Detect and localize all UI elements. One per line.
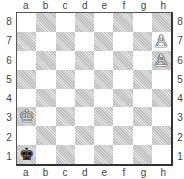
file-label-f-bottom: f — [114, 167, 134, 178]
square-h2[interactable] — [152, 126, 171, 145]
rank-label-1-right: 1 — [174, 147, 184, 166]
square-e1[interactable] — [94, 145, 113, 164]
rank-label-7-left: 7 — [3, 31, 15, 50]
file-label-e-bottom: e — [95, 167, 115, 178]
rank-label-6-right: 6 — [174, 51, 184, 70]
rank-label-2-right: 2 — [174, 128, 184, 147]
chess-board: ♙♙♔♚ — [16, 12, 173, 166]
square-e6[interactable] — [94, 51, 113, 70]
square-b8[interactable] — [36, 13, 55, 32]
square-e4[interactable] — [94, 89, 113, 108]
file-label-h-top: h — [153, 0, 173, 11]
square-c5[interactable] — [56, 70, 75, 89]
square-d8[interactable] — [75, 13, 94, 32]
file-label-g-bottom: g — [134, 167, 154, 178]
rank-label-8-left: 8 — [3, 12, 15, 31]
square-d2[interactable] — [75, 126, 94, 145]
square-h6[interactable]: ♙ — [152, 51, 171, 70]
white-king-icon[interactable]: ♔ — [19, 108, 34, 125]
square-h1[interactable] — [152, 145, 171, 164]
file-label-d-bottom: d — [75, 167, 95, 178]
black-king-icon[interactable]: ♚ — [19, 146, 34, 163]
rank-label-3-left: 3 — [3, 108, 15, 127]
square-c7[interactable] — [56, 32, 75, 51]
square-d7[interactable] — [75, 32, 94, 51]
square-f7[interactable] — [113, 32, 132, 51]
rank-label-5-left: 5 — [3, 70, 15, 89]
file-label-c-bottom: c — [55, 167, 75, 178]
white-pawn-icon[interactable]: ♙ — [154, 52, 169, 69]
square-c8[interactable] — [56, 13, 75, 32]
rank-label-7-right: 7 — [174, 31, 184, 50]
file-label-g-top: g — [134, 0, 154, 11]
square-a5[interactable] — [17, 70, 36, 89]
file-label-b-top: b — [36, 0, 56, 11]
square-h7[interactable]: ♙ — [152, 32, 171, 51]
square-e2[interactable] — [94, 126, 113, 145]
rank-label-5-right: 5 — [174, 70, 184, 89]
file-label-d-top: d — [75, 0, 95, 11]
square-f3[interactable] — [113, 107, 132, 126]
square-g4[interactable] — [133, 89, 152, 108]
square-e5[interactable] — [94, 70, 113, 89]
square-a6[interactable] — [17, 51, 36, 70]
file-label-b-bottom: b — [36, 167, 56, 178]
square-a1[interactable]: ♚ — [17, 145, 36, 164]
square-c1[interactable] — [56, 145, 75, 164]
square-b2[interactable] — [36, 126, 55, 145]
rank-label-3-right: 3 — [174, 108, 184, 127]
square-c2[interactable] — [56, 126, 75, 145]
square-d3[interactable] — [75, 107, 94, 126]
square-h3[interactable] — [152, 107, 171, 126]
square-d1[interactable] — [75, 145, 94, 164]
rank-label-4-left: 4 — [3, 89, 15, 108]
square-a4[interactable] — [17, 89, 36, 108]
square-b4[interactable] — [36, 89, 55, 108]
square-f2[interactable] — [113, 126, 132, 145]
square-c3[interactable] — [56, 107, 75, 126]
square-f5[interactable] — [113, 70, 132, 89]
square-h4[interactable] — [152, 89, 171, 108]
square-g2[interactable] — [133, 126, 152, 145]
file-label-e-top: e — [95, 0, 115, 11]
square-f4[interactable] — [113, 89, 132, 108]
square-f1[interactable] — [113, 145, 132, 164]
square-b1[interactable] — [36, 145, 55, 164]
square-h5[interactable] — [152, 70, 171, 89]
square-d4[interactable] — [75, 89, 94, 108]
square-g5[interactable] — [133, 70, 152, 89]
square-g7[interactable] — [133, 32, 152, 51]
square-g8[interactable] — [133, 13, 152, 32]
rank-label-6-left: 6 — [3, 51, 15, 70]
square-a3[interactable]: ♔ — [17, 107, 36, 126]
square-h8[interactable] — [152, 13, 171, 32]
rank-label-4-right: 4 — [174, 89, 184, 108]
white-pawn-icon[interactable]: ♙ — [154, 33, 169, 50]
file-label-c-top: c — [55, 0, 75, 11]
square-g6[interactable] — [133, 51, 152, 70]
square-d5[interactable] — [75, 70, 94, 89]
square-d6[interactable] — [75, 51, 94, 70]
file-label-a-top: a — [16, 0, 36, 11]
square-b3[interactable] — [36, 107, 55, 126]
rank-label-2-left: 2 — [3, 128, 15, 147]
square-e3[interactable] — [94, 107, 113, 126]
file-label-a-bottom: a — [16, 167, 36, 178]
square-b7[interactable] — [36, 32, 55, 51]
rank-label-8-right: 8 — [174, 12, 184, 31]
square-c6[interactable] — [56, 51, 75, 70]
square-e7[interactable] — [94, 32, 113, 51]
file-label-f-top: f — [114, 0, 134, 11]
square-f8[interactable] — [113, 13, 132, 32]
square-c4[interactable] — [56, 89, 75, 108]
square-b6[interactable] — [36, 51, 55, 70]
file-label-h-bottom: h — [153, 167, 173, 178]
square-a2[interactable] — [17, 126, 36, 145]
square-b5[interactable] — [36, 70, 55, 89]
square-f6[interactable] — [113, 51, 132, 70]
square-g3[interactable] — [133, 107, 152, 126]
square-a7[interactable] — [17, 32, 36, 51]
square-g1[interactable] — [133, 145, 152, 164]
square-a8[interactable] — [17, 13, 36, 32]
square-e8[interactable] — [94, 13, 113, 32]
